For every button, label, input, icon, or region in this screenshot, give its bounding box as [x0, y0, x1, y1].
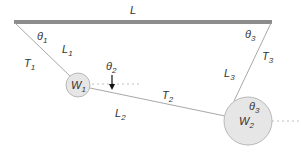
label-theta2: θ2: [106, 60, 117, 75]
label-theta1: θ1: [37, 30, 47, 45]
label-l2: L2: [115, 107, 126, 122]
label-l3: L3: [224, 67, 235, 82]
label-t3: T3: [262, 50, 274, 65]
label-theta3-top: θ3: [245, 28, 256, 43]
diagram-canvas: L θ1 L1 T1 θ2 W1 T2 L2 θ3 T3 L3 W2 θ3: [0, 0, 301, 152]
label-l1: L1: [62, 43, 73, 58]
label-ceiling-l: L: [130, 4, 136, 16]
string-l2: [90, 88, 225, 116]
arrow-down-icon: [109, 84, 115, 90]
diagram-svg: L θ1 L1 T1 θ2 W1 T2 L2 θ3 T3 L3 W2 θ3: [0, 0, 301, 152]
label-t1: T1: [24, 57, 35, 72]
label-t2: T2: [162, 89, 174, 104]
